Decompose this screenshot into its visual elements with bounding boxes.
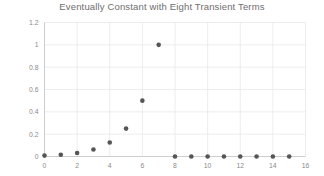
x-tick-label: 2 <box>75 162 79 169</box>
data-point <box>173 154 178 159</box>
y-tick-label: 0.8 <box>29 64 39 71</box>
data-point <box>205 154 210 159</box>
y-tick-label: 0 <box>35 153 39 160</box>
x-tick-label: 12 <box>236 162 244 169</box>
data-point <box>222 154 227 159</box>
y-tick-label: 1.2 <box>29 19 39 26</box>
chart-container: Eventually Constant with Eight Transient… <box>0 0 324 176</box>
data-point <box>140 98 145 103</box>
y-tick-label: 0.4 <box>29 108 39 115</box>
y-axis-tick-labels: 00.20.40.60.811.2 <box>29 19 39 160</box>
data-point-markers <box>42 43 291 159</box>
y-tick-label: 0.2 <box>29 131 39 138</box>
data-point <box>59 152 64 157</box>
x-tick-label: 0 <box>43 162 47 169</box>
data-point <box>124 126 129 131</box>
data-point <box>271 154 276 159</box>
scatter-plot: 00.20.40.60.811.2 0246810121416 <box>0 0 324 176</box>
data-point <box>75 151 80 156</box>
x-tick-label: 16 <box>302 162 310 169</box>
data-point <box>287 154 292 159</box>
x-tick-label: 8 <box>173 162 177 169</box>
y-tick-label: 1 <box>35 41 39 48</box>
data-point <box>156 43 161 48</box>
data-point <box>42 153 47 158</box>
x-tick-label: 6 <box>140 162 144 169</box>
data-point <box>91 147 96 152</box>
data-point <box>189 154 194 159</box>
data-point <box>107 140 112 145</box>
x-tick-label: 4 <box>108 162 112 169</box>
y-tick-label: 0.6 <box>29 86 39 93</box>
x-axis-tick-labels: 0246810121416 <box>43 162 310 169</box>
x-tick-label: 14 <box>269 162 277 169</box>
data-point <box>254 154 259 159</box>
data-point <box>238 154 243 159</box>
x-tick-label: 10 <box>204 162 212 169</box>
